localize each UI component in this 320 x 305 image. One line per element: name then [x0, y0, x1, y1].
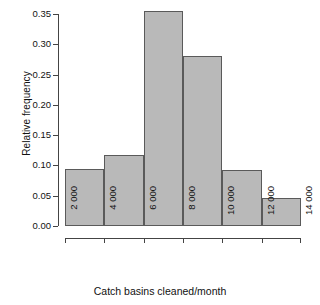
y-tick-label-wrap: 0.05	[23, 191, 51, 201]
y-tick-label-wrap: 0.15	[23, 130, 51, 140]
x-tick	[144, 238, 145, 243]
x-tick	[183, 238, 184, 243]
x-tick	[300, 238, 301, 243]
y-tick	[53, 75, 58, 76]
x-tick	[65, 238, 66, 243]
x-tick-label: 8 000	[187, 186, 197, 246]
x-tick	[222, 238, 223, 243]
y-tick	[53, 165, 58, 166]
y-tick-label: 0.05	[25, 191, 51, 201]
x-tick-label: 14 000	[304, 186, 314, 246]
y-tick-label: 0.10	[25, 160, 51, 170]
y-tick-label: 0.00	[25, 221, 51, 231]
y-tick	[53, 135, 58, 136]
y-tick-label: 0.15	[25, 130, 51, 140]
y-tick-label-wrap: 0.25	[23, 70, 51, 80]
y-tick	[53, 44, 58, 45]
y-tick-label: 0.30	[25, 39, 51, 49]
x-tick-label: 10 000	[226, 186, 236, 246]
x-tick-label: 12 000	[266, 186, 276, 246]
y-tick	[53, 226, 58, 227]
y-tick	[53, 105, 58, 106]
y-tick	[53, 196, 58, 197]
y-tick-label: 0.20	[25, 100, 51, 110]
y-tick-label-wrap: 0.00	[23, 221, 51, 231]
x-tick-label: 2 000	[69, 186, 79, 246]
x-tick-label: 6 000	[148, 186, 158, 246]
y-tick-label-wrap: 0.10	[23, 160, 51, 170]
y-axis-line	[58, 14, 59, 226]
y-tick-label: 0.25	[25, 70, 51, 80]
x-axis-title: Catch basins cleaned/month	[0, 285, 320, 297]
y-tick-label: 0.35	[25, 9, 51, 19]
y-tick	[53, 14, 58, 15]
x-tick	[262, 238, 263, 243]
y-tick-label-wrap: 0.20	[23, 100, 51, 110]
y-tick-label-wrap: 0.35	[23, 9, 51, 19]
y-tick-label-wrap: 0.30	[23, 39, 51, 49]
histogram-figure: Relative frequency 0.000.050.100.150.200…	[0, 0, 320, 305]
x-tick	[104, 238, 105, 243]
x-tick-label: 4 000	[108, 186, 118, 246]
